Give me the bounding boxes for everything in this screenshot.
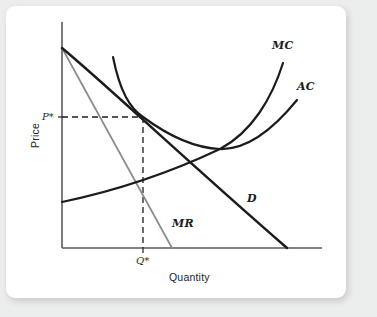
price-star-label: P* bbox=[42, 112, 54, 122]
y-axis-title: Price bbox=[30, 123, 41, 148]
diagram-svg bbox=[0, 0, 377, 317]
figure-page: MC AC D MR P* Q* Price Quantity bbox=[0, 0, 377, 317]
x-axis-title: Quantity bbox=[169, 272, 210, 283]
equilibrium-guides bbox=[62, 117, 143, 248]
mc-curve bbox=[62, 63, 283, 202]
mc-curve-label: MC bbox=[272, 40, 294, 51]
mr-curve-label: MR bbox=[172, 218, 194, 229]
quantity-star-label: Q* bbox=[136, 256, 149, 266]
axis-group bbox=[62, 22, 322, 248]
demand-curve-label: D bbox=[247, 193, 257, 204]
ac-curve bbox=[113, 57, 297, 149]
economics-diagram bbox=[0, 0, 377, 317]
mr-curve bbox=[62, 48, 172, 248]
ac-curve-label: AC bbox=[297, 81, 315, 92]
